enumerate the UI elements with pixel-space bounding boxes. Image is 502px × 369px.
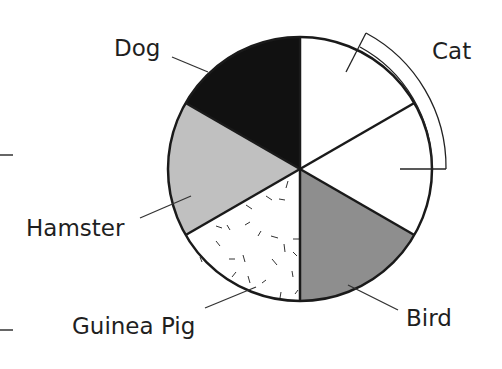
label-guinea-pig: Guinea Pig: [72, 315, 195, 338]
label-dog: Dog: [114, 37, 160, 60]
leader-dog: [172, 57, 208, 72]
label-cat: Cat: [432, 40, 471, 63]
label-hamster: Hamster: [26, 217, 124, 240]
label-bird: Bird: [406, 307, 452, 330]
leader-guinea-pig: [205, 287, 256, 308]
leader-bird: [348, 285, 398, 310]
